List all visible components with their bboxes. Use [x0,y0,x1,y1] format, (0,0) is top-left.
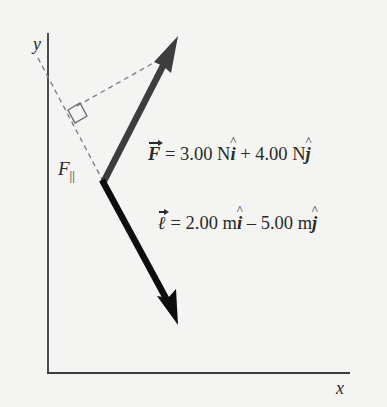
x-axis-label: x [336,378,344,399]
unit-vector-i: i [237,213,242,234]
minus-operator: – [242,213,261,233]
equals-sign: = [166,213,186,233]
equals-sign: = [160,144,180,164]
force-vector-equation: F = 3.00 Ni + 4.00 Nj [148,144,311,165]
unit-vector-j: j [312,213,317,234]
force-y-component: 4.00 N [255,144,305,164]
unit-vector-j: j [306,144,311,165]
force-vector-symbol: F [148,144,160,165]
force-x-component: 3.00 N [180,144,230,164]
displacement-y-component: 5.00 m [261,213,312,233]
displacement-vector-shaft [102,180,168,302]
parallel-subscript: || [70,168,75,183]
plus-operator: + [236,144,256,164]
displacement-vector-symbol: ℓ [158,213,166,234]
force-vector-arrowhead [154,36,178,73]
parallel-component-symbol: F [58,158,70,179]
unit-vector-i: i [230,144,235,165]
diagram-canvas [0,0,387,407]
projection-line-perpendicular [77,57,164,106]
displacement-x-component: 2.00 m [186,213,237,233]
y-axis-label: y [33,34,41,55]
displacement-vector-equation: ℓ = 2.00 mi – 5.00 mj [158,213,317,234]
parallel-component-label: F|| [58,158,75,184]
